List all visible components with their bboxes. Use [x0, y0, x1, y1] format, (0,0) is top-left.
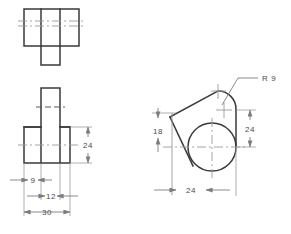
dim-label-side-24-vertical: 24 [245, 125, 255, 134]
top-view-outline [24, 9, 79, 46]
front-view-outline [24, 88, 70, 163]
side-view-polygon-left-leg [170, 117, 193, 166]
dim-label-front-9: 9 [30, 176, 35, 185]
drawing-canvas: 24 9 12 30 [0, 0, 291, 234]
dim-label-front-30: 30 [42, 208, 52, 217]
dim-label-radius: R 9 [262, 74, 276, 83]
engineering-drawing-sheet: 24 9 12 30 [0, 0, 291, 234]
right-side-view: R 9 18 24 24 [152, 74, 276, 196]
dim-label-side-24-horizontal: 24 [186, 186, 196, 195]
top-view [18, 9, 85, 65]
dim-label-front-12: 12 [46, 192, 56, 201]
top-view-tongue [41, 46, 60, 65]
front-view: 24 9 12 30 [10, 88, 93, 217]
dim-label-front-24: 24 [83, 141, 93, 150]
dim-label-side-18: 18 [153, 127, 163, 136]
side-view-radius-arc [218, 91, 236, 110]
side-view-polygon [170, 91, 218, 117]
